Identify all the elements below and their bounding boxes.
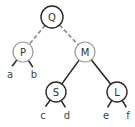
node-s: S xyxy=(46,82,66,102)
tree-edges xyxy=(29,25,110,84)
leaf-label-f: f xyxy=(126,110,130,121)
leaf-label-c: c xyxy=(40,110,46,121)
node-p: P xyxy=(13,42,33,62)
edge-q-m xyxy=(60,25,79,45)
edge-q-p xyxy=(29,25,45,44)
node-label: S xyxy=(53,87,59,98)
node-label: P xyxy=(20,47,26,58)
leaf-label-d: d xyxy=(64,110,70,121)
leaf-label-b: b xyxy=(31,69,37,80)
node-l: L xyxy=(107,82,127,102)
leaf-label-e: e xyxy=(103,110,109,121)
tree-diagram: QPMSL abcdef xyxy=(0,0,135,127)
node-label: L xyxy=(114,87,120,98)
node-q: Q xyxy=(41,6,63,28)
tree-nodes: QPMSL xyxy=(13,6,127,102)
leaf-label-a: a xyxy=(7,69,13,80)
node-label: Q xyxy=(48,12,56,23)
node-label: M xyxy=(81,47,90,58)
node-m: M xyxy=(75,42,95,62)
edge-m-s xyxy=(62,60,79,84)
edge-m-l xyxy=(91,60,111,84)
